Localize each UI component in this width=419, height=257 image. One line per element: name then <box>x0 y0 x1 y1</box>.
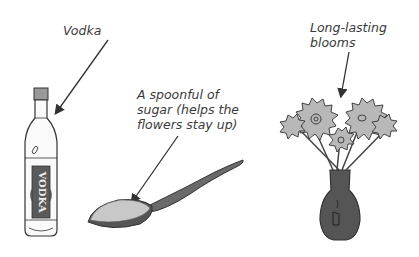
flower-heads <box>280 98 397 152</box>
illustration: VODKA <box>0 0 419 257</box>
blooms-arrow <box>341 52 349 96</box>
flowers-in-vase-icon <box>280 98 397 240</box>
vase-icon <box>320 170 360 240</box>
vodka-arrow <box>56 40 108 113</box>
vodka-bottle-icon: VODKA <box>25 88 57 236</box>
sugar-arrow <box>132 136 178 202</box>
bottle-label-text: VODKA <box>37 170 48 212</box>
spoon-icon <box>88 160 243 228</box>
